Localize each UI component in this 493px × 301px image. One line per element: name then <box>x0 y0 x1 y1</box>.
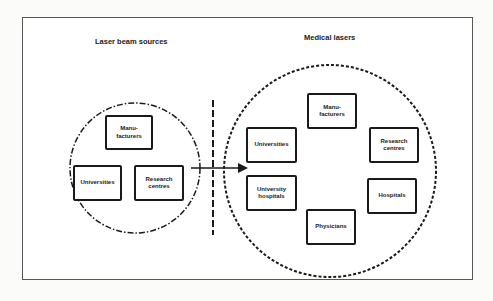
arrow-head-icon <box>238 163 248 173</box>
node-right-physicians: Physicians <box>306 209 356 245</box>
left-group-title: Laser beam sources <box>95 37 168 46</box>
node-right-hospitals: Hospitals <box>367 178 417 214</box>
node-left-universities: Universities <box>73 165 122 201</box>
right-group-title: Medical lasers <box>304 33 355 42</box>
node-left-research-centres: Research centres <box>134 165 184 201</box>
node-right-research-centres: Research centres <box>369 127 419 163</box>
node-right-university-hospitals: University hospitals <box>246 175 297 211</box>
node-right-universities: Universities <box>246 127 297 163</box>
node-right-manufacturers: Manu- facturers <box>307 93 357 129</box>
node-left-manufacturers: Manu- facturers <box>105 115 153 150</box>
